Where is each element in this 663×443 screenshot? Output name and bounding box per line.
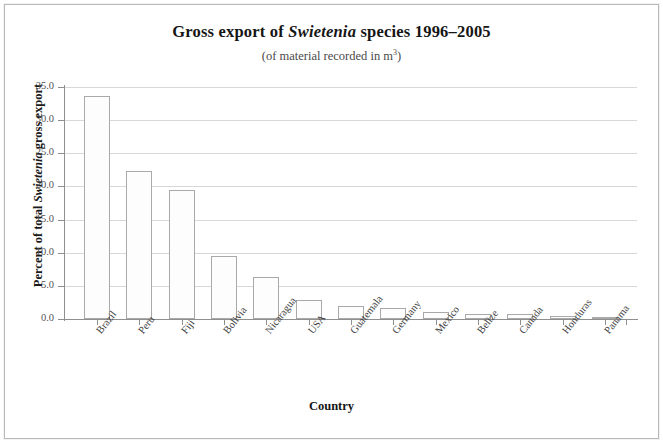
chart-title-italic: Swietenia bbox=[288, 22, 356, 41]
y-axis-tick-label: 20.0 bbox=[8, 179, 54, 190]
bar-brazil bbox=[84, 96, 110, 319]
y-axis-tick bbox=[58, 286, 64, 287]
y-axis-tick bbox=[58, 186, 64, 187]
chart-title: Gross export of Swietenia species 1996–2… bbox=[0, 22, 663, 42]
bars-layer bbox=[65, 87, 637, 319]
y-axis-tick bbox=[58, 120, 64, 121]
y-axis-tick-label: 30.0 bbox=[8, 113, 54, 124]
y-axis-title-italic: Swietenia bbox=[31, 152, 45, 202]
x-axis-title: Country bbox=[0, 399, 663, 414]
chart-subtitle-before: (of material recorded in m bbox=[262, 49, 393, 63]
y-axis-tick-label: 10.0 bbox=[8, 246, 54, 257]
y-axis-tick bbox=[58, 220, 64, 221]
chart-subtitle-after: ) bbox=[397, 49, 401, 63]
y-axis-tick-label: 15.0 bbox=[8, 213, 54, 224]
chart-title-after: species 1996–2005 bbox=[356, 22, 491, 41]
y-axis-tick-label: 35.0 bbox=[8, 80, 54, 91]
y-axis-tick bbox=[58, 253, 64, 254]
chart-title-before: Gross export of bbox=[172, 22, 288, 41]
y-axis-tick-label: 25.0 bbox=[8, 146, 54, 157]
chart-page: Gross export of Swietenia species 1996–2… bbox=[0, 0, 663, 443]
y-axis-tick bbox=[58, 87, 64, 88]
y-axis-tick-label: 5.0 bbox=[8, 279, 54, 290]
y-axis-tick bbox=[58, 153, 64, 154]
bar-fiji bbox=[169, 190, 195, 319]
bar-bolivia bbox=[211, 256, 237, 319]
chart-subtitle: (of material recorded in m3) bbox=[0, 48, 663, 64]
y-axis-tick-label: 0.0 bbox=[8, 312, 54, 323]
y-axis-tick bbox=[58, 319, 64, 320]
x-axis-tick bbox=[626, 320, 627, 325]
bar-peru bbox=[126, 171, 152, 319]
